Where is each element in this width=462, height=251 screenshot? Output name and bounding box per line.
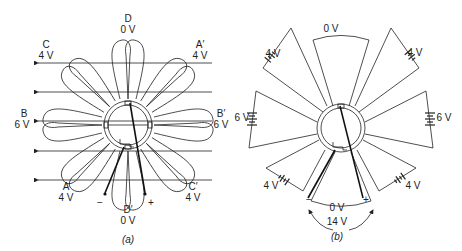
label-d-prime: D′: [123, 204, 132, 215]
voltage-right: 6 V: [436, 112, 451, 123]
label-b-prime: B′: [217, 108, 226, 119]
voltage-left: 6 V: [234, 112, 249, 123]
voltage-upper-left: 4 V: [265, 48, 280, 59]
voltage-a-prime: 4 V: [192, 50, 207, 61]
voltage-total: 14 V: [327, 216, 348, 227]
label-b: B: [21, 108, 28, 119]
voltage-top: 0 V: [323, 23, 338, 34]
figure-a: D 0 V C 4 V A′ 4 V B 6 V B′ 6 V A 4 V C′…: [14, 13, 228, 245]
voltage-d-prime: 0 V: [120, 215, 135, 226]
armature-winding-diagram: D 0 V C 4 V A′ 4 V B 6 V B′ 6 V A 4 V C′…: [0, 0, 462, 251]
flux-lines: [38, 63, 212, 180]
label-a: A: [63, 181, 70, 192]
label-d: D: [124, 13, 131, 24]
voltage-upper-right: 4 V: [407, 47, 422, 58]
voltage-a: 4 V: [58, 192, 73, 203]
voltage-b-prime: 6 V: [213, 119, 228, 130]
brush-plus-b: +: [363, 194, 369, 205]
brush-plus-a: +: [148, 197, 154, 208]
caption-a: (a): [122, 234, 134, 245]
label-a-prime: A′: [196, 39, 205, 50]
voltage-d: 0 V: [120, 24, 135, 35]
battery-icons: [247, 50, 435, 186]
voltage-b: 6 V: [14, 119, 29, 130]
caption-b: (b): [331, 231, 343, 242]
voltage-bottom: 0 V: [329, 202, 344, 213]
brush-minus-b: −: [306, 194, 312, 205]
voltage-c-prime: 4 V: [185, 192, 200, 203]
brush-minus-a: −: [97, 197, 103, 208]
voltage-lower-right: 4 V: [405, 180, 420, 191]
label-c-prime: C′: [188, 181, 197, 192]
label-c: C: [42, 39, 49, 50]
voltage-lower-left: 4 V: [263, 180, 278, 191]
voltage-c: 4 V: [38, 50, 53, 61]
